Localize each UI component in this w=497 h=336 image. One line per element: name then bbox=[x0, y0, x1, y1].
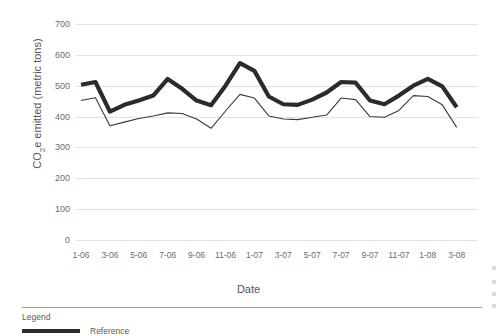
x-axis-tick-label: 3-07 bbox=[275, 250, 292, 260]
cropped-right-edge-marks bbox=[489, 262, 497, 322]
x-axis-title: Date bbox=[0, 283, 497, 295]
legend-entry-label: Reference bbox=[90, 326, 129, 336]
x-axis-tick-label: 5-06 bbox=[130, 250, 147, 260]
x-axis-tick-label: 9-07 bbox=[361, 250, 378, 260]
x-axis-tick-label: 1-06 bbox=[72, 250, 89, 260]
edge-mark bbox=[492, 292, 496, 296]
y-axis-title-subscript: 2 bbox=[38, 148, 47, 152]
y-axis-title-rest: e emitted (metric tons) bbox=[31, 38, 43, 147]
x-axis-tick-label: 7-07 bbox=[333, 250, 350, 260]
x-axis-tick-label: 1-07 bbox=[246, 250, 263, 260]
legend-divider bbox=[22, 307, 482, 308]
x-axis-tick-label: 1-08 bbox=[419, 250, 436, 260]
y-axis-title-main: CO bbox=[31, 152, 43, 169]
x-axis-tick-labels: 1-063-065-067-069-0611-061-073-075-077-0… bbox=[0, 250, 497, 264]
gridline bbox=[76, 240, 478, 241]
x-axis-tick-label: 11-07 bbox=[388, 250, 409, 260]
legend: Legend Reference bbox=[22, 312, 482, 336]
edge-mark bbox=[492, 280, 496, 284]
y-axis-tick-label: 0 bbox=[30, 235, 70, 245]
legend-entries: Reference bbox=[22, 326, 482, 336]
y-axis-title: CO2e emitted (metric tons) bbox=[31, 0, 46, 209]
chart-lines bbox=[76, 24, 478, 240]
x-axis-tick-label: 7-06 bbox=[159, 250, 176, 260]
legend-title: Legend bbox=[22, 312, 482, 323]
x-axis-tick-label: 3-08 bbox=[448, 250, 465, 260]
x-axis-tick-label: 3-06 bbox=[101, 250, 118, 260]
legend-swatch bbox=[22, 329, 80, 333]
x-axis-tick-label: 11-06 bbox=[215, 250, 236, 260]
reference-series-line bbox=[81, 63, 457, 111]
legend-entry[interactable]: Reference bbox=[22, 326, 482, 336]
chart-plot-area: 7006005004003002001000 1-063-065-067-069… bbox=[0, 0, 497, 270]
x-axis-tick-label: 9-06 bbox=[188, 250, 205, 260]
edge-mark bbox=[492, 304, 496, 308]
x-axis-tick-label: 5-07 bbox=[304, 250, 321, 260]
edge-mark bbox=[492, 266, 496, 270]
